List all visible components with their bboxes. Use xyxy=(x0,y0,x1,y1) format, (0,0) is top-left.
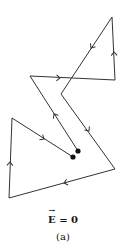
end-dot xyxy=(70,154,75,159)
vector-e-symbol: E xyxy=(48,214,56,225)
start-dot xyxy=(75,148,80,153)
loop-path xyxy=(9,17,115,198)
arrowhead-icon xyxy=(56,75,60,81)
equation-rest: = 0 xyxy=(56,214,78,225)
closed-loop-path-diagram xyxy=(0,0,126,210)
equation-label: E = 0 xyxy=(0,214,126,225)
endpoint-dots xyxy=(70,148,80,159)
figure-sublabel: (a) xyxy=(0,231,126,242)
direction-arrows xyxy=(7,43,117,185)
